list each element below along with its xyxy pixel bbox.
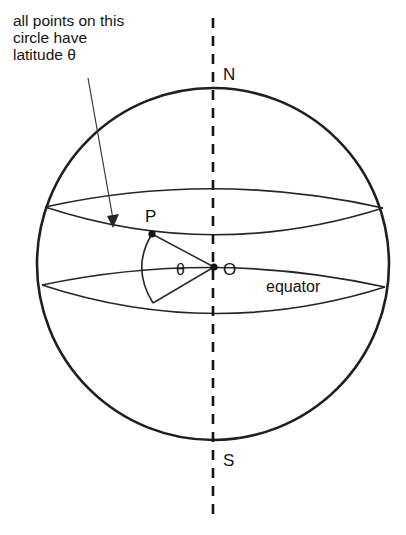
sphere-latitude-diagram: all points on this circle have latitude … bbox=[0, 0, 406, 535]
point-p-dot bbox=[148, 230, 155, 237]
annotation-line-3: latitude θ bbox=[13, 46, 76, 63]
label-point-p: P bbox=[145, 207, 156, 226]
annotation-line-1: all points on this bbox=[13, 12, 124, 29]
label-south-pole: S bbox=[223, 451, 234, 470]
label-center-o: O bbox=[223, 260, 236, 279]
diagram-canvas: all points on this circle have latitude … bbox=[0, 0, 406, 535]
label-north-pole: N bbox=[223, 65, 235, 84]
label-equator: equator bbox=[266, 278, 321, 295]
center-o-dot bbox=[210, 263, 217, 270]
label-angle-theta: θ bbox=[176, 261, 185, 278]
annotation-line-2: circle have bbox=[13, 29, 87, 46]
meridian-arc bbox=[142, 234, 153, 303]
